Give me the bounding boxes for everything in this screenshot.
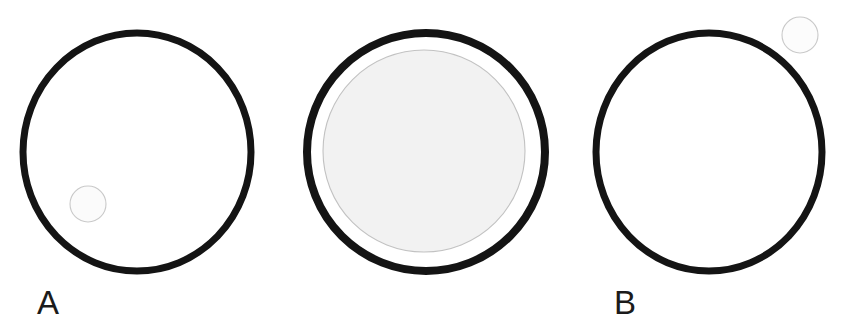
small-circle-c bbox=[782, 17, 818, 53]
panel-a: A bbox=[0, 0, 290, 330]
panel-label-a: A bbox=[37, 286, 59, 319]
panel-c-graphic bbox=[580, 0, 842, 330]
small-circle-a bbox=[70, 186, 106, 222]
panel-b: B bbox=[290, 0, 580, 330]
inner-circle-b bbox=[323, 50, 525, 252]
outer-circle-c bbox=[596, 33, 822, 271]
panel-b-graphic bbox=[290, 0, 580, 330]
panel-c: C bbox=[580, 0, 842, 330]
panel-a-graphic bbox=[0, 0, 290, 330]
figure-canvas: A B C bbox=[0, 0, 842, 330]
outer-circle-a bbox=[23, 33, 251, 271]
